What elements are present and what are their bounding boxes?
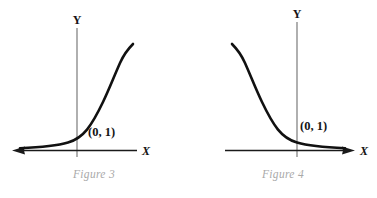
figure-4: Y X (0, 1) Figure 4 (189, 0, 377, 198)
figure-4-x-axis-label: X (359, 144, 369, 158)
figure-3-y-axis-label: Y (73, 13, 82, 27)
figure-4-caption: Figure 4 (189, 168, 377, 180)
figure-panel: Y X (0, 1) Figure 3 Y X (0, 1) Figure 4 (0, 0, 377, 198)
figure-3: Y X (0, 1) Figure 3 (0, 0, 188, 198)
figure-4-point-label: (0, 1) (300, 119, 327, 133)
figure-3-caption: Figure 3 (0, 168, 188, 180)
figure-3-graph: Y X (0, 1) (0, 0, 188, 168)
figure-4-graph: Y X (0, 1) (189, 0, 377, 168)
figure-4-y-axis-label: Y (293, 7, 302, 21)
figure-4-curve (232, 44, 345, 148)
figure-3-x-axis-label: X (141, 144, 151, 158)
figure-3-point-label: (0, 1) (88, 125, 115, 139)
